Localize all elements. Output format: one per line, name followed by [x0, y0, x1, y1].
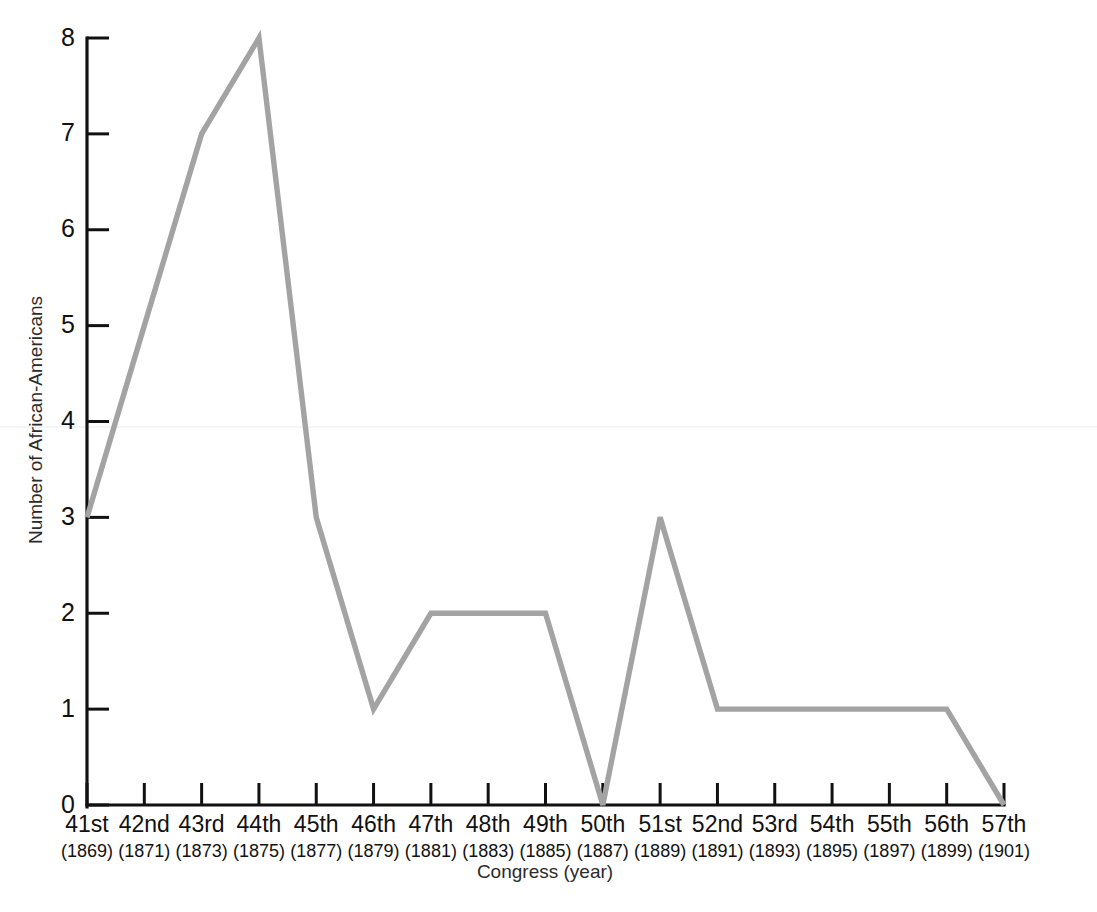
x-tick-year-50th: (1887) [577, 841, 629, 861]
x-tick-label-54th: 54th [810, 811, 855, 837]
x-axis-tick-labels: 41st(1869)42nd(1871)43rd(1873)44th(1875)… [61, 811, 1030, 861]
y-tick-label-3: 3 [61, 502, 75, 530]
x-tick-label-53rd: 53rd [752, 811, 798, 837]
x-tick-year-54th: (1895) [806, 841, 858, 861]
y-tick-label-4: 4 [61, 406, 75, 434]
y-tick-label-5: 5 [61, 310, 75, 338]
x-tick-label-44th: 44th [237, 811, 282, 837]
x-tick-year-46th: (1879) [348, 841, 400, 861]
x-tick-label-48th: 48th [466, 811, 511, 837]
y-tick-label-6: 6 [61, 214, 75, 242]
x-tick-label-46th: 46th [351, 811, 396, 837]
x-tick-year-47th: (1881) [405, 841, 457, 861]
x-tick-year-42nd: (1871) [118, 841, 170, 861]
x-tick-year-55th: (1897) [863, 841, 915, 861]
y-tick-label-1: 1 [61, 694, 75, 722]
y-tick-label-2: 2 [61, 598, 75, 626]
x-tick-year-53rd: (1893) [749, 841, 801, 861]
x-tick-year-45th: (1877) [290, 841, 342, 861]
y-tick-label-7: 7 [61, 118, 75, 146]
x-tick-label-42nd: 42nd [119, 811, 170, 837]
x-tick-year-43rd: (1873) [176, 841, 228, 861]
x-tick-year-52nd: (1891) [691, 841, 743, 861]
y-axis-tick-labels: 012345678 [61, 23, 75, 818]
x-tick-year-56th: (1899) [921, 841, 973, 861]
y-tick-label-8: 8 [61, 23, 75, 51]
x-tick-label-56th: 56th [924, 811, 969, 837]
chart-background [0, 0, 1097, 912]
x-tick-year-51st: (1889) [634, 841, 686, 861]
x-tick-year-48th: (1883) [462, 841, 514, 861]
x-tick-label-55th: 55th [867, 811, 912, 837]
x-tick-label-45th: 45th [294, 811, 339, 837]
x-tick-year-57th: (1901) [978, 841, 1030, 861]
x-tick-year-41st: (1869) [61, 841, 113, 861]
chart-canvas: 012345678 Number of African-Americans 41… [0, 0, 1097, 912]
x-tick-label-50th: 50th [580, 811, 625, 837]
x-tick-label-41st: 41st [65, 811, 109, 837]
x-tick-year-49th: (1885) [519, 841, 571, 861]
x-tick-label-51st: 51st [638, 811, 682, 837]
x-tick-label-52nd: 52nd [692, 811, 743, 837]
x-tick-label-47th: 47th [408, 811, 453, 837]
line-chart: 012345678 Number of African-Americans 41… [0, 0, 1097, 912]
x-tick-year-44th: (1875) [233, 841, 285, 861]
x-tick-label-49th: 49th [523, 811, 568, 837]
x-tick-label-57th: 57th [982, 811, 1027, 837]
x-axis-title: Congress (year) [477, 861, 613, 882]
x-tick-label-43rd: 43rd [179, 811, 225, 837]
y-axis-title: Number of African-Americans [25, 296, 46, 544]
